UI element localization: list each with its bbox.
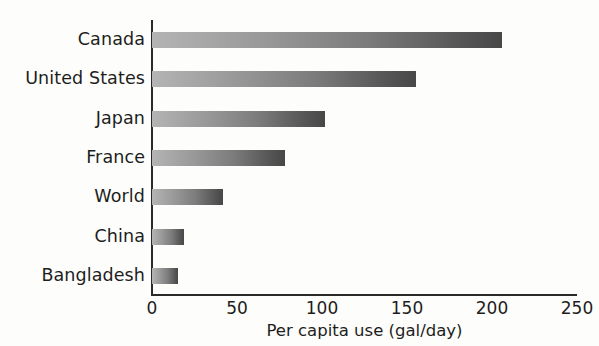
bar-chart-figure: CanadaUnited StatesJapanFranceWorldChina… [0,0,599,346]
bar [152,189,223,205]
category-label: World [0,186,145,206]
x-tick-label: 150 [391,298,423,318]
category-label: Canada [0,29,145,49]
bar [152,32,502,48]
x-tick-label: 200 [476,298,508,318]
x-axis-title: Per capita use (gal/day) [152,321,577,340]
category-label: China [0,226,145,246]
x-tick-label: 50 [226,298,248,318]
category-label: Japan [0,108,145,128]
category-label: France [0,147,145,167]
bars-layer [152,20,577,296]
x-tick-label: 250 [561,298,593,318]
bar [152,229,184,245]
category-label: United States [0,68,145,88]
bar [152,71,416,87]
x-tick-label: 100 [306,298,338,318]
x-axis-tick-labels: 050100150200250 [0,298,599,322]
bar [152,111,325,127]
x-tick-label: 0 [147,298,158,318]
bar [152,268,178,284]
plot-area: CanadaUnited StatesJapanFranceWorldChina… [0,0,599,346]
bar [152,150,285,166]
category-label: Bangladesh [0,265,145,285]
category-axis-labels: CanadaUnited StatesJapanFranceWorldChina… [0,20,145,296]
